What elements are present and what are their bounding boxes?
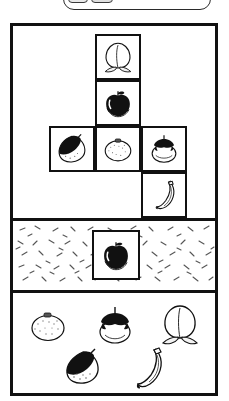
banana-icon <box>125 343 173 391</box>
orange-icon <box>25 303 71 347</box>
page-title: Fruit Arrangement Puzzle <box>0 0 1 1</box>
bank-item-banana[interactable] <box>125 343 173 391</box>
grid-cell-banana[interactable] <box>141 172 187 218</box>
grid-cell-persimmon[interactable] <box>141 126 187 172</box>
texture-cell-apple[interactable] <box>92 230 140 280</box>
tray-chip-1[interactable] <box>68 0 88 3</box>
apple-icon <box>97 82 139 124</box>
persimmon-icon <box>91 301 139 349</box>
screenshot-root: Fruit Arrangement Puzzle <box>0 0 229 401</box>
tray-widget[interactable] <box>63 0 211 10</box>
orange-icon <box>97 128 139 170</box>
grid-cell-peach[interactable] <box>95 34 141 80</box>
grid-cell-chestnut[interactable] <box>49 126 95 172</box>
texture-panel <box>13 218 215 293</box>
bank-item-chestnut[interactable] <box>60 345 106 389</box>
bank-panel <box>13 293 215 393</box>
chestnut-icon <box>51 128 93 170</box>
grid-cell-apple[interactable] <box>95 80 141 126</box>
grid-cell-orange[interactable] <box>95 126 141 172</box>
persimmon-icon <box>143 128 185 170</box>
peach-icon <box>156 299 204 349</box>
bank-item-orange[interactable] <box>25 303 71 347</box>
tray-chip-2[interactable] <box>91 0 113 3</box>
puzzle-frame <box>10 23 218 396</box>
grid-panel <box>13 26 215 218</box>
chestnut-icon <box>60 345 106 389</box>
peach-icon <box>97 36 139 78</box>
banana-icon <box>143 174 185 216</box>
bank-item-peach[interactable] <box>156 299 204 349</box>
bank-item-persimmon[interactable] <box>91 301 139 349</box>
apple-icon <box>94 232 138 278</box>
